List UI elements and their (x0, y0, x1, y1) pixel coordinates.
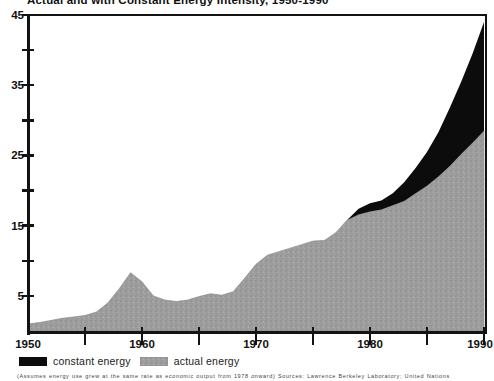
legend-label-constant-energy: constant energy (53, 355, 131, 367)
actual-energy-area (28, 131, 484, 331)
x-axis-label: 1980 (357, 338, 383, 350)
y-axis-label: 45 (11, 9, 24, 21)
x-axis-labels: 19501960197019801990 (15, 338, 493, 350)
x-axis-label: 1960 (129, 338, 155, 350)
y-axis-label: 5 (18, 290, 25, 302)
legend-item-constant-energy: constant energy (19, 355, 131, 367)
footnote: (Assumes energy use grew at the same rat… (17, 373, 491, 379)
legend-label-actual-energy: actual energy (174, 355, 240, 367)
x-axis-label: 1990 (467, 338, 493, 350)
figure: Actual and with Constant Energy Intensit… (0, 0, 494, 381)
y-axis-labels: 515253545 (11, 9, 24, 302)
legend: constant energy actual energy (19, 355, 239, 367)
x-axis-label: 1970 (243, 338, 269, 350)
legend-item-actual-energy: actual energy (140, 355, 240, 367)
y-axis-label: 25 (11, 149, 24, 161)
y-axis-label: 35 (11, 79, 24, 91)
x-axis-label: 1950 (15, 338, 41, 350)
y-axis-label: 15 (11, 220, 24, 232)
actual-energy-swatch (140, 357, 168, 366)
area-chart: 51525354519501960197019801990 (0, 0, 494, 381)
constant-energy-swatch (19, 357, 47, 366)
